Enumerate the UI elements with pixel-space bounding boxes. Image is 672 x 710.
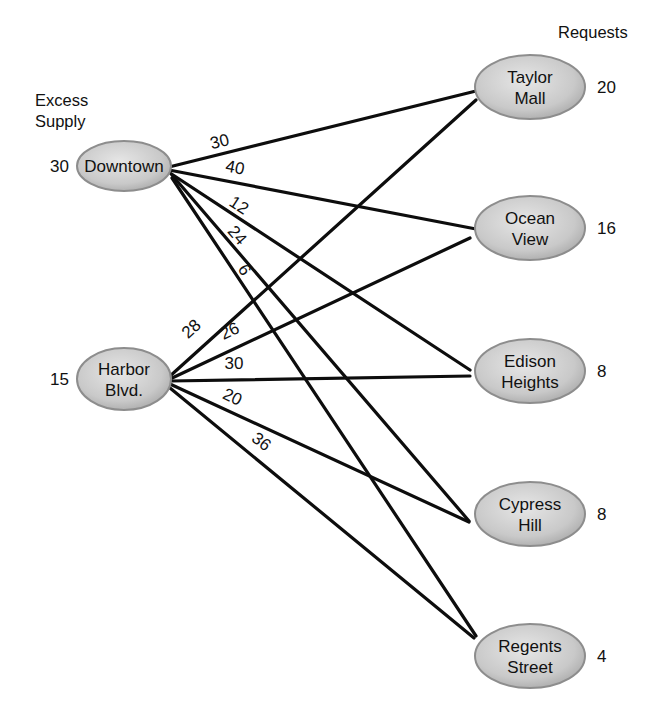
node-ellipse-harbor xyxy=(77,348,171,410)
destination-node-cypress: CypressHill xyxy=(475,482,585,546)
edge-harbor-to-cypress xyxy=(170,384,469,522)
edges-layer xyxy=(169,91,476,638)
source-node-harbor: HarborBlvd. xyxy=(77,348,171,410)
destination-node-edison: EdisonHeights xyxy=(475,339,585,403)
destination-node-taylor: TaylorMall xyxy=(475,55,585,119)
edge-downtown-to-cypress xyxy=(172,175,469,521)
node-label-downtown: Downtown xyxy=(84,157,163,176)
node-label-harbor: Blvd. xyxy=(105,381,143,400)
requests-heading: Requests xyxy=(558,22,628,43)
node-label-taylor: Taylor xyxy=(507,68,553,87)
supply-value-harbor: 15 xyxy=(50,370,69,389)
edge-downtown-to-edison xyxy=(170,173,470,370)
request-value-taylor: 20 xyxy=(597,78,616,97)
source-node-downtown: Downtown xyxy=(77,141,171,191)
excess-supply-heading-line2: Supply xyxy=(35,111,88,132)
node-ellipse-regents xyxy=(475,624,585,688)
node-ellipse-edison xyxy=(475,339,585,403)
node-label-harbor: Harbor xyxy=(98,360,150,379)
edge-cost-downtown-to-ocean: 40 xyxy=(224,156,246,178)
node-label-taylor: Mall xyxy=(514,89,545,108)
node-label-regents: Street xyxy=(507,658,553,677)
node-label-ocean: View xyxy=(512,230,549,249)
edge-cost-harbor-to-taylor: 28 xyxy=(178,316,205,343)
edge-cost-downtown-to-edison: 12 xyxy=(226,192,252,218)
edge-cost-harbor-to-ocean: 26 xyxy=(217,318,242,343)
edge-harbor-to-ocean xyxy=(170,238,470,379)
destination-node-ocean: OceanView xyxy=(475,196,585,260)
node-label-regents: Regents xyxy=(498,637,561,656)
edge-cost-downtown-to-taylor: 30 xyxy=(208,130,231,153)
request-value-cypress: 8 xyxy=(597,505,606,524)
edge-downtown-to-taylor xyxy=(169,91,476,167)
excess-supply-heading: Excess Supply xyxy=(35,90,88,132)
nodes-layer: Downtown30HarborBlvd.15TaylorMall20Ocean… xyxy=(50,55,616,688)
edge-harbor-to-regents xyxy=(170,388,474,638)
node-label-ocean: Ocean xyxy=(505,209,555,228)
node-label-cypress: Cypress xyxy=(499,495,561,514)
request-value-ocean: 16 xyxy=(597,219,616,238)
edge-downtown-to-ocean xyxy=(169,170,476,229)
excess-supply-heading-line1: Excess xyxy=(35,90,88,111)
node-label-edison: Heights xyxy=(501,373,559,392)
transportation-network-diagram: Downtown30HarborBlvd.15TaylorMall20Ocean… xyxy=(0,0,672,710)
node-ellipse-ocean xyxy=(475,196,585,260)
node-label-cypress: Hill xyxy=(518,516,542,535)
node-label-edison: Edison xyxy=(504,352,556,371)
edge-cost-downtown-to-cypress: 24 xyxy=(224,222,251,249)
edge-harbor-to-edison xyxy=(170,376,470,381)
edge-cost-harbor-to-cypress: 20 xyxy=(220,384,245,409)
supply-value-downtown: 30 xyxy=(50,157,69,176)
node-ellipse-cypress xyxy=(475,482,585,546)
edge-cost-harbor-to-edison: 30 xyxy=(225,354,244,373)
destination-node-regents: RegentsStreet xyxy=(475,624,585,688)
node-ellipse-taylor xyxy=(475,55,585,119)
request-value-edison: 8 xyxy=(597,362,606,381)
request-value-regents: 4 xyxy=(597,647,606,666)
edge-cost-harbor-to-regents: 36 xyxy=(248,428,275,455)
